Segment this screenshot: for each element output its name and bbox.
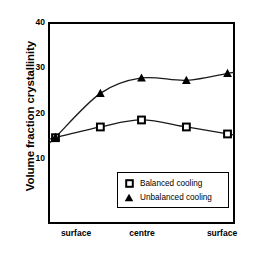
- balanced-cooling-markers: [52, 117, 231, 142]
- y-tick-30: 30: [29, 63, 45, 72]
- legend-item-balanced: Balanced cooling: [118, 176, 230, 191]
- y-tick-40: 40: [29, 18, 45, 27]
- x-tick-surface-left: surface: [61, 228, 91, 238]
- y-tick-20: 20: [29, 109, 45, 118]
- square-data-point: [183, 124, 190, 131]
- chart-legend: Balanced cooling Unbalanced cooling: [117, 172, 229, 208]
- x-tick-surface-right: surface: [207, 228, 237, 238]
- chart-figure: Volume fraction crystallinity 40 30 20 1…: [0, 0, 258, 269]
- legend-label-balanced: Balanced cooling: [140, 179, 202, 189]
- square-data-point: [224, 131, 231, 138]
- square-data-point: [138, 117, 145, 124]
- triangle-data-point: [96, 89, 105, 97]
- square-marker-icon: [118, 177, 140, 191]
- legend-label-unbalanced: Unbalanced cooling: [140, 193, 212, 203]
- x-tick-centre: centre: [129, 228, 155, 238]
- y-tick-10: 10: [29, 154, 45, 163]
- legend-item-unbalanced: Unbalanced cooling: [118, 190, 230, 205]
- triangle-marker-icon: [118, 191, 140, 205]
- x-axis-tick-labels: surface centre surface: [0, 228, 258, 242]
- square-data-point: [97, 124, 104, 131]
